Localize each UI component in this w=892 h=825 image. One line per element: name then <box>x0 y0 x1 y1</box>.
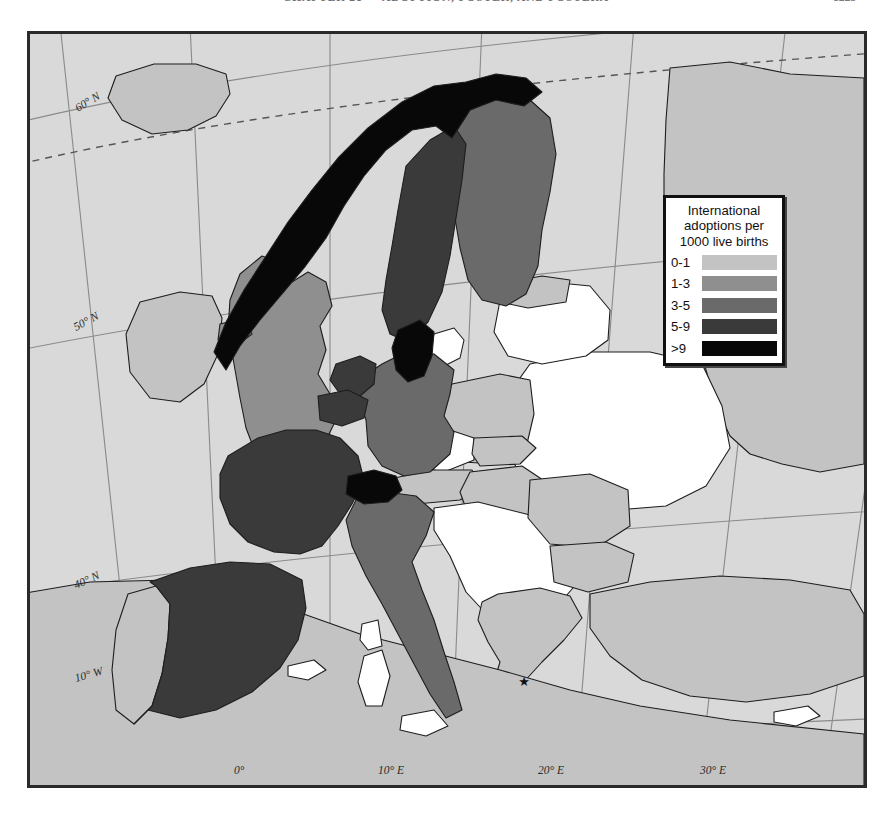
page-header: CHAPTER 21 — ADOPTION, FOSTER, AND FOSTE… <box>0 0 892 12</box>
legend-swatch-3-5 <box>702 298 777 313</box>
europe-choropleth-map: ★ 60° N 50° N 40° N 10° W 0° 10° E 20° E… <box>30 34 864 785</box>
legend-row: >9 <box>671 339 777 357</box>
legend-label-5-9: 5-9 <box>671 319 702 334</box>
legend-swatch-gt9 <box>702 341 777 356</box>
legend-row: 1-3 <box>671 275 777 293</box>
map-legend: International adoptions per 1000 live bi… <box>663 195 785 366</box>
legend-swatch-5-9 <box>702 319 777 334</box>
map-frame: ★ 60° N 50° N 40° N 10° W 0° 10° E 20° E… <box>27 31 867 788</box>
page-number: 1223 <box>833 0 856 3</box>
legend-swatch-1-3 <box>702 276 777 291</box>
capital-star-icon: ★ <box>518 674 530 689</box>
graticule-label-30e: 30° E <box>699 764 726 776</box>
graticule-label-20e: 20° E <box>538 764 564 776</box>
page-header-title: CHAPTER 21 — ADOPTION, FOSTER, AND FOSTE… <box>283 0 609 3</box>
legend-label-3-5: 3-5 <box>671 298 702 313</box>
legend-label-1-3: 1-3 <box>671 276 702 291</box>
legend-row: 3-5 <box>671 296 777 314</box>
graticule-label-10e: 10° E <box>378 764 404 776</box>
legend-row: 5-9 <box>671 318 777 336</box>
legend-swatch-0-1 <box>702 255 777 270</box>
graticule-label-0: 0° <box>234 764 245 776</box>
legend-row: 0-1 <box>671 253 777 271</box>
legend-label-0-1: 0-1 <box>671 255 702 270</box>
legend-label-gt9: >9 <box>671 341 702 356</box>
legend-title: International adoptions per 1000 live bi… <box>671 203 777 249</box>
